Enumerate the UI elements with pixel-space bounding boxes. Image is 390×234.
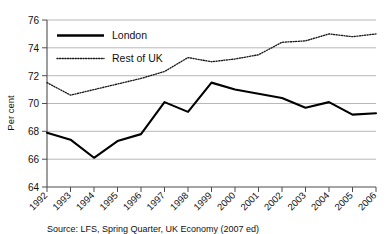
x-tick-label: 2006: [356, 190, 379, 213]
series-line-rest-of-uk: [47, 34, 376, 95]
y-tick-label: 72: [28, 71, 40, 82]
x-tick-label: 1994: [74, 190, 97, 213]
x-tick-label: 2004: [309, 190, 332, 213]
legend-label-rest-of-uk: Rest of UK: [112, 52, 163, 64]
x-tick-labels: 1992199319941995199619971998199920002001…: [27, 190, 379, 213]
x-tick-marks: [47, 187, 376, 192]
y-tick-label: 74: [28, 43, 40, 54]
source-note: Source: LFS, Spring Quarter, UK Economy …: [47, 224, 259, 234]
y-tick-label: 64: [28, 182, 40, 193]
y-tick-label: 70: [28, 98, 40, 109]
x-tick-label: 1999: [191, 190, 214, 213]
x-tick-label: 1996: [121, 190, 144, 213]
y-tick-marks: [42, 20, 47, 187]
x-tick-label: 1998: [168, 190, 191, 213]
x-tick-label: 2003: [285, 190, 308, 213]
line-chart: 76 74 72 70 68 66 64 Per cent 1992199319…: [0, 0, 390, 234]
y-axis-title: Per cent: [5, 95, 16, 131]
x-tick-label: 2001: [238, 190, 261, 213]
x-tick-label: 1993: [50, 190, 73, 213]
y-tick-labels: 76 74 72 70 68 66 64: [28, 15, 40, 193]
x-tick-label: 1997: [144, 190, 167, 213]
x-tick-label: 1992: [27, 190, 50, 213]
x-tick-label: 1995: [97, 190, 120, 213]
y-tick-label: 68: [28, 126, 40, 137]
x-tick-label: 2002: [262, 190, 285, 213]
chart-legend: London Rest of UK: [57, 29, 163, 64]
chart-canvas: 76 74 72 70 68 66 64 Per cent 1992199319…: [0, 0, 390, 234]
y-tick-label: 76: [28, 15, 40, 26]
series-line-london: [47, 83, 376, 158]
y-tick-label: 66: [28, 154, 40, 165]
legend-label-london: London: [112, 29, 147, 41]
x-tick-label: 2005: [332, 190, 355, 213]
x-tick-label: 2000: [215, 190, 238, 213]
